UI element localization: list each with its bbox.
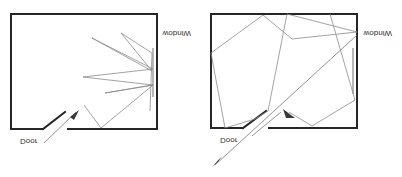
right-exit-arrowhead-icon xyxy=(212,156,222,167)
left-reflected-rays xyxy=(83,33,153,128)
right-window-label: Window xyxy=(363,29,392,38)
right-door-label: Door xyxy=(220,136,238,145)
left-door-label: Door xyxy=(20,137,38,146)
right-inner-arrowhead-icon xyxy=(283,109,295,118)
left-room-walls xyxy=(11,14,157,129)
left-room-panel: Door Window xyxy=(11,14,191,146)
right-room-panel: Door Window xyxy=(211,14,392,167)
right-door-pass-line xyxy=(252,112,281,136)
room-reflection-diagram: Door Window Door Window xyxy=(0,0,402,177)
left-arrowhead-icon xyxy=(70,110,79,120)
left-window-label: Window xyxy=(162,29,191,38)
